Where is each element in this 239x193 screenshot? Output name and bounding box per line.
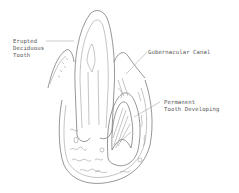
label-erupted-line1: Erupted: [13, 38, 44, 45]
label-permanent-line1: Permanent: [164, 99, 219, 106]
label-erupted-line2: Deciduous: [13, 45, 44, 52]
alveolar-bone-outline: [59, 80, 152, 183]
leader-canal: [126, 52, 147, 74]
deciduous-dentin-line: [80, 20, 108, 128]
label-erupted: Erupted Deciduous Tooth: [13, 38, 44, 59]
label-permanent-line2: Tooth Developing: [164, 106, 219, 113]
label-erupted-line3: Tooth: [13, 52, 44, 59]
tooth-illustration: [0, 0, 239, 193]
deciduous-pulp: [87, 44, 95, 72]
label-permanent-tooth: Permanent Tooth Developing: [164, 99, 219, 113]
tooth-diagram: Erupted Deciduous Tooth Gubernacular Can…: [0, 0, 239, 193]
gingiva-texture: [58, 58, 68, 77]
deciduous-tooth-outline: [75, 11, 115, 139]
gingiva-left: [48, 50, 74, 88]
label-gubernacular-canal: Gubernacular Canal: [148, 49, 210, 56]
gingiva-right: [114, 53, 145, 78]
leader-permanent: [134, 102, 160, 117]
label-canal-text: Gubernacular Canal: [148, 49, 210, 56]
